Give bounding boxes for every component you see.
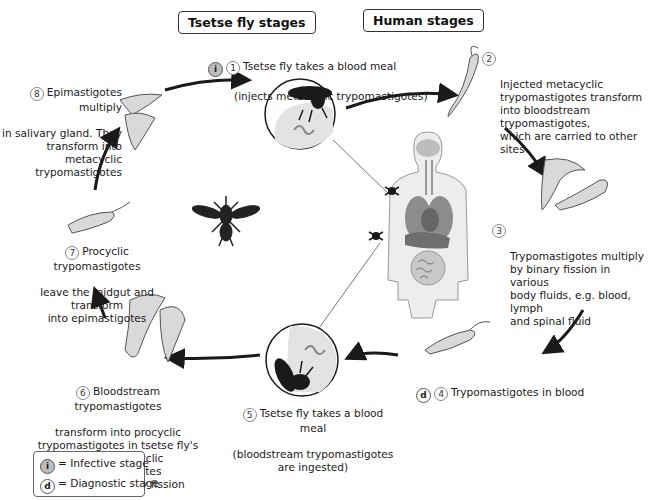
stage-7-text-line2: leave the midgut and transform into epim… (40, 286, 154, 324)
bite-circle-bottom (266, 324, 338, 396)
legend-diagnostic: d= Diagnostic stage (40, 477, 159, 494)
stage-7-label: 7Procyclic trypomastigotes leave the mid… (22, 232, 172, 325)
stage-number-3: 3 (492, 224, 506, 238)
stage-5-text-line1: Tsetse fly takes a blood meal (260, 407, 384, 434)
tsetse-header-text: Tsetse fly stages (188, 15, 306, 30)
stage-8-text-line1: Epimastigotes multiply (47, 86, 122, 113)
tsetse-fly-icon (191, 196, 261, 246)
stage-number-6: 6 (76, 386, 90, 400)
stage-1-label: i1Tsetse fly takes a blood meal (injects… (208, 47, 428, 103)
stage-number-2: 2 (482, 52, 496, 66)
infective-badge-icon: i (40, 459, 55, 474)
legend-box: i= Infective stage d= Diagnostic stage (33, 451, 145, 497)
human-body-figure (388, 132, 468, 318)
stage-number-8: 8 (30, 87, 44, 101)
stage-2-text: Injected metacyclic trypomastigotes tran… (484, 78, 652, 156)
stage-number-5: 5 (243, 408, 257, 422)
stage-3-label: 3 Trypomastigotes multiply by binary fis… (492, 224, 652, 341)
legend-infective-label: = Infective stage (58, 457, 149, 469)
stage-4-text: Trypomastigotes in blood (451, 386, 584, 398)
stage-5-label: 5Tsetse fly takes a blood meal (bloodstr… (228, 394, 398, 474)
stage-8-text-line2: in salivary gland. They transform into m… (2, 127, 122, 178)
diagnostic-badge-icon: d (40, 479, 55, 494)
stage-number-7: 7 (65, 246, 79, 260)
human-header-text: Human stages (373, 13, 474, 28)
stage-1-text-line1: Tsetse fly takes a blood meal (243, 60, 396, 72)
diagnostic-stage-badge: d (416, 388, 431, 403)
legend-diagnostic-label: = Diagnostic stage (58, 477, 159, 489)
infective-stage-badge: i (208, 62, 223, 77)
stage-number-4: 4 (434, 387, 448, 401)
stage-5-text-line2: (bloodstream trypomastigotes are ingeste… (233, 448, 394, 473)
human-stages-header: Human stages (363, 9, 484, 32)
legend-infective: i= Infective stage (40, 457, 149, 474)
tsetse-fly-stages-header: Tsetse fly stages (178, 11, 316, 34)
stage-1-text-line2: (injects metacyclic trypomastigotes) (208, 90, 428, 102)
stage-number-1: 1 (226, 61, 240, 75)
stage-4-label: d4Trypomastigotes in blood (416, 373, 584, 403)
stage-3-text: Trypomastigotes multiply by binary fissi… (492, 250, 652, 328)
stage-8-label: 8Epimastigotes multiply in salivary glan… (2, 73, 122, 179)
stage-2-label: 2 Injected metacyclic trypomastigotes tr… (484, 52, 652, 169)
